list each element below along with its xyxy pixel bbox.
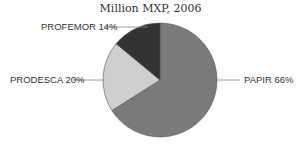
pie-chart: PAPIR 66% PRODESCA 20% PROFEMOR 14% <box>0 0 301 144</box>
label-prodesca: PRODESCA 20% <box>10 74 85 85</box>
label-profemor: PROFEMOR 14% <box>41 21 118 32</box>
label-papir: PAPIR 66% <box>244 74 294 85</box>
